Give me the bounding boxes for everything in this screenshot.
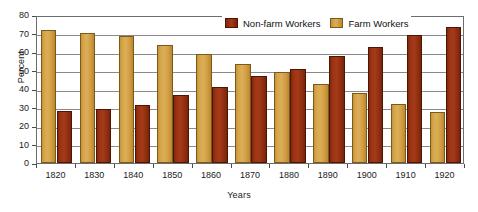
bar-nonfarm-1900[interactable] <box>368 47 384 163</box>
bar-nonfarm-1910[interactable] <box>407 35 423 163</box>
gridline <box>37 35 463 36</box>
bar-nonfarm-1840[interactable] <box>135 105 151 163</box>
bar-nonfarm-1880[interactable] <box>290 69 306 163</box>
bar-nonfarm-1860[interactable] <box>212 87 228 163</box>
x-tick-label: 1830 <box>75 171 114 180</box>
x-tick-mark <box>269 164 270 168</box>
x-tick-label: 1860 <box>192 171 231 180</box>
bar-farm-1920[interactable] <box>430 112 446 163</box>
bar-farm-1840[interactable] <box>119 36 135 163</box>
y-tick-mark <box>32 108 36 109</box>
y-tick-mark <box>32 71 36 72</box>
bar-nonfarm-1920[interactable] <box>446 27 462 163</box>
chart-legend: Non-farm Workers Farm Workers <box>222 14 411 32</box>
x-tick-mark <box>464 164 465 168</box>
legend-label-nonfarm: Non-farm Workers <box>243 18 320 29</box>
bar-farm-1900[interactable] <box>352 93 368 163</box>
x-tick-mark <box>114 164 115 168</box>
legend-label-farm: Farm Workers <box>348 18 408 29</box>
x-tick-label: 1890 <box>308 171 347 180</box>
bar-nonfarm-1850[interactable] <box>173 95 189 163</box>
bar-farm-1880[interactable] <box>274 72 290 163</box>
x-tick-mark <box>386 164 387 168</box>
x-tick-mark <box>231 164 232 168</box>
y-tick-mark <box>32 34 36 35</box>
bar-farm-1850[interactable] <box>157 45 173 163</box>
legend-entry-farm[interactable]: Farm Workers <box>330 18 408 29</box>
x-tick-label: 1900 <box>347 171 386 180</box>
x-tick-label: 1820 <box>36 171 75 180</box>
x-tick-label: 1870 <box>231 171 270 180</box>
bar-farm-1890[interactable] <box>313 84 329 163</box>
y-tick-mark <box>32 53 36 54</box>
bar-farm-1860[interactable] <box>196 54 212 163</box>
farm-swatch-icon <box>330 18 343 28</box>
x-tick-mark <box>308 164 309 168</box>
y-tick-mark <box>32 127 36 128</box>
legend-entry-nonfarm[interactable]: Non-farm Workers <box>225 18 320 29</box>
x-tick-label: 1920 <box>425 171 464 180</box>
y-tick-label: 10 <box>0 141 29 150</box>
bar-nonfarm-1830[interactable] <box>96 109 112 163</box>
x-tick-mark <box>75 164 76 168</box>
x-axis-title: Years <box>0 190 478 200</box>
y-tick-label: 70 <box>0 30 29 39</box>
plot-area <box>36 16 464 164</box>
bar-nonfarm-1890[interactable] <box>329 56 345 163</box>
x-tick-mark <box>36 164 37 168</box>
bar-nonfarm-1870[interactable] <box>251 76 267 163</box>
y-tick-label: 20 <box>0 122 29 131</box>
x-tick-mark <box>347 164 348 168</box>
y-tick-label: 80 <box>0 11 29 20</box>
y-tick-label: 50 <box>0 67 29 76</box>
nonfarm-swatch-icon <box>225 18 238 28</box>
y-tick-label: 0 <box>0 159 29 168</box>
bar-farm-1820[interactable] <box>41 30 57 163</box>
y-tick-mark <box>32 145 36 146</box>
bar-farm-1870[interactable] <box>235 64 251 163</box>
x-tick-label: 1850 <box>153 171 192 180</box>
x-tick-label: 1840 <box>114 171 153 180</box>
bar-chart-figure: Percent 01020304050607080 18201830184018… <box>0 0 478 212</box>
y-tick-label: 60 <box>0 48 29 57</box>
x-tick-mark <box>192 164 193 168</box>
bar-farm-1910[interactable] <box>391 104 407 163</box>
bar-nonfarm-1820[interactable] <box>57 111 73 163</box>
x-tick-mark <box>425 164 426 168</box>
x-tick-label: 1910 <box>386 171 425 180</box>
x-tick-label: 1880 <box>269 171 308 180</box>
y-tick-mark <box>32 16 36 17</box>
y-tick-label: 30 <box>0 104 29 113</box>
y-tick-mark <box>32 90 36 91</box>
y-tick-label: 40 <box>0 85 29 94</box>
gridline <box>37 54 463 55</box>
bar-farm-1830[interactable] <box>80 33 96 163</box>
x-tick-mark <box>153 164 154 168</box>
